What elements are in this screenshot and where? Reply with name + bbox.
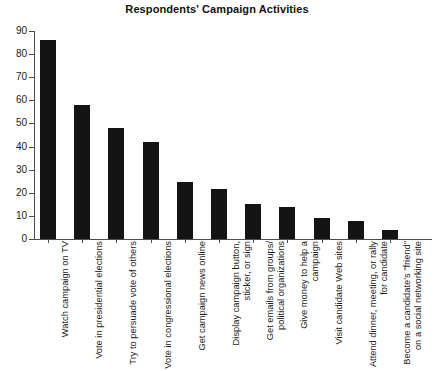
x-axis-labels: Watch campaign on TVVote in presidential…	[0, 241, 434, 371]
x-axis-line	[34, 239, 432, 240]
x-axis-label: Become a candidate's "friend" on a socia…	[402, 241, 432, 369]
x-axis-tick	[356, 240, 357, 243]
x-axis-tick	[219, 240, 220, 243]
x-axis-tick	[287, 240, 288, 243]
bar	[314, 218, 330, 239]
y-axis-tick-label: 40	[1, 142, 27, 152]
y-axis-tick-label: 70	[1, 72, 27, 82]
plot-area	[34, 31, 434, 239]
y-axis-tick-label-wrap: 50	[0, 118, 27, 128]
x-axis-tick	[48, 240, 49, 243]
bar	[279, 207, 295, 239]
x-axis-label: Attend dinner, meeting, or rally for can…	[368, 241, 398, 369]
y-axis-tick	[29, 239, 34, 240]
y-axis-tick-label: 30	[1, 165, 27, 175]
y-axis-tick	[29, 123, 34, 124]
y-axis-tick-label-wrap: 30	[0, 165, 27, 175]
x-axis-label: Try to persuade vote of others	[128, 241, 158, 369]
y-axis-tick	[29, 77, 34, 78]
x-axis-label: Visit candidate Web sites	[334, 241, 364, 369]
x-axis-tick	[82, 240, 83, 243]
y-axis-tick	[29, 54, 34, 55]
bar	[211, 189, 227, 239]
y-axis-tick-label: 60	[1, 95, 27, 105]
y-axis-tick-label: 50	[1, 118, 27, 128]
y-axis-tick-label-wrap: 0	[0, 234, 27, 244]
bar	[74, 105, 90, 239]
bar	[177, 182, 193, 239]
x-axis-label: Vote in presidential elections	[94, 241, 124, 369]
bar	[382, 230, 398, 239]
x-axis-label: Display campaign button, sticker, or sig…	[231, 241, 261, 369]
x-axis-label: Get emails from groups/ political organi…	[265, 241, 295, 369]
y-axis-tick-label: 80	[1, 49, 27, 59]
bar	[108, 128, 124, 239]
y-axis-tick-label: 20	[1, 188, 27, 198]
x-axis-label: Vote in congressional elections	[163, 241, 193, 369]
y-axis-tick-label-wrap: 80	[0, 49, 27, 59]
y-axis-tick	[29, 147, 34, 148]
bar	[143, 142, 159, 239]
y-axis-tick-label-wrap: 70	[0, 72, 27, 82]
x-axis-label: Watch campaign on TV	[60, 241, 90, 369]
chart-title: Respondents' Campaign Activities	[0, 3, 434, 15]
y-axis-tick-label: 0	[1, 234, 27, 244]
bar	[348, 221, 364, 239]
y-axis-tick-label: 90	[1, 26, 27, 36]
bar	[245, 204, 261, 239]
y-axis-tick	[29, 31, 34, 32]
y-axis-tick	[29, 170, 34, 171]
y-axis-tick	[29, 100, 34, 101]
bar-chart-figure: Respondents' Campaign Activities Watch c…	[0, 0, 434, 371]
bar	[40, 40, 56, 239]
x-axis-tick	[151, 240, 152, 243]
x-axis-label: Get campaign news online	[197, 241, 227, 369]
x-axis-tick	[116, 240, 117, 243]
y-axis-tick	[29, 216, 34, 217]
x-axis-tick	[322, 240, 323, 243]
y-axis-tick-label-wrap: 60	[0, 95, 27, 105]
y-axis-tick-label: 10	[1, 211, 27, 221]
x-axis-tick	[185, 240, 186, 243]
x-axis-tick	[390, 240, 391, 243]
x-axis-label: Give money to help a campaign	[299, 241, 329, 369]
x-axis-tick	[253, 240, 254, 243]
y-axis-tick-label-wrap: 40	[0, 142, 27, 152]
y-axis-tick-label-wrap: 90	[0, 26, 27, 36]
y-axis-tick	[29, 193, 34, 194]
y-axis-tick-label-wrap: 10	[0, 211, 27, 221]
y-axis-tick-label-wrap: 20	[0, 188, 27, 198]
